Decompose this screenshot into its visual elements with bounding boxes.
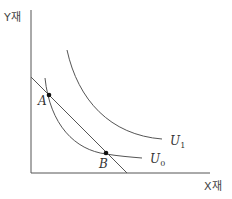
point-a-marker [47, 93, 52, 98]
indifference-curve-u1 [67, 50, 162, 139]
diagram-canvas: Y재 X재 A B U1 U0 [0, 0, 232, 199]
x-axis-label: X재 [204, 180, 222, 193]
curve-u1-label: U1 [170, 134, 185, 150]
point-a-label: A [37, 94, 47, 108]
point-b-label: B [98, 157, 108, 171]
y-axis-label: Y재 [3, 11, 21, 24]
curve-u0-label: U0 [150, 152, 165, 168]
budget-line [31, 77, 127, 173]
point-b-marker [104, 151, 109, 156]
indifference-curve-u0 [45, 78, 142, 158]
